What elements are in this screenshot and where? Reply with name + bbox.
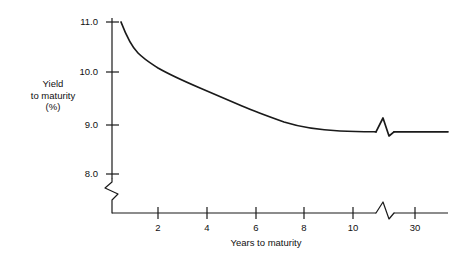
y-tick-label-8: 8.0 xyxy=(64,168,98,179)
x-axis-title: Years to maturity xyxy=(196,237,336,249)
y-tick-label-11: 11.0 xyxy=(64,16,98,27)
x-axis-break-icon xyxy=(376,202,394,219)
x-tick-label-30: 30 xyxy=(403,222,427,233)
y-axis-title-line-1: Yield xyxy=(14,78,92,90)
x-tick-label-6: 6 xyxy=(244,222,268,233)
y-axis-title-line-3: (%) xyxy=(14,101,92,113)
yield-curve-line-left xyxy=(121,22,376,132)
yield-curve-chart: 11.0 10.0 9.0 8.0 2 4 6 8 10 30 Yield to… xyxy=(0,0,456,273)
x-tick-label-10: 10 xyxy=(341,222,365,233)
y-tick-label-10: 10.0 xyxy=(64,66,98,77)
x-tick-label-2: 2 xyxy=(146,222,170,233)
x-tick-label-4: 4 xyxy=(195,222,219,233)
y-tick-label-9: 9.0 xyxy=(64,119,98,130)
y-axis-break-icon xyxy=(105,179,118,213)
yield-curve-break-icon xyxy=(376,118,394,136)
y-axis-title: Yield to maturity (%) xyxy=(14,78,92,113)
x-tick-label-8: 8 xyxy=(292,222,316,233)
y-axis-title-line-2: to maturity xyxy=(14,90,92,102)
chart-plot-area xyxy=(0,0,456,273)
